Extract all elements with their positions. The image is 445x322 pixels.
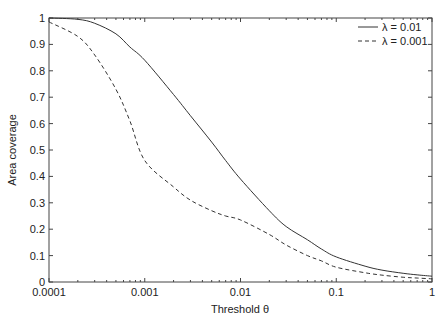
x-tick-label: 0.01 <box>230 286 251 298</box>
axis-ticks: 00.10.20.30.40.50.60.70.80.910.00010.001… <box>30 12 435 298</box>
y-tick-label: 0.7 <box>30 91 45 103</box>
y-tick-label: 0.9 <box>30 38 45 50</box>
x-tick-label: 1 <box>429 286 435 298</box>
y-tick-label: 0.8 <box>30 65 45 77</box>
line-chart: 00.10.20.30.40.50.60.70.80.910.00010.001… <box>0 0 445 322</box>
y-tick-label: 0.6 <box>30 118 45 130</box>
y-tick-label: 0.5 <box>30 144 45 156</box>
y-tick-label: 1 <box>39 12 45 24</box>
y-tick-label: 0.3 <box>30 197 45 209</box>
y-tick-label: 0.4 <box>30 170 45 182</box>
legend-label: λ = 0.01 <box>382 21 421 33</box>
series-line-0 <box>49 18 432 276</box>
y-tick-label: 0.2 <box>30 223 45 235</box>
y-tick-label: 0.1 <box>30 250 45 262</box>
y-axis-label: Area coverage <box>6 114 18 186</box>
x-tick-label: 0.001 <box>131 286 159 298</box>
x-axis-label: Threshold θ <box>211 303 269 315</box>
x-tick-label: 0.1 <box>329 286 344 298</box>
series-line-1 <box>49 22 432 279</box>
x-tick-label: 0.0001 <box>32 286 66 298</box>
plot-frame <box>49 18 432 282</box>
data-series <box>49 18 432 279</box>
legend: λ = 0.01λ = 0.001 <box>358 21 428 47</box>
legend-label: λ = 0.001 <box>382 35 428 47</box>
